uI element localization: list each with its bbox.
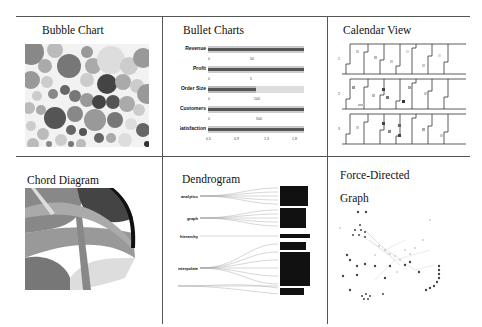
svg-text:0: 0 xyxy=(208,97,210,101)
svg-text:50: 50 xyxy=(250,57,254,61)
svg-text:interpolate: interpolate xyxy=(178,266,199,271)
table-top-border xyxy=(16,16,470,17)
svg-text:Satisfaction: Satisfaction xyxy=(180,125,206,131)
svg-text:Customers: Customers xyxy=(180,105,206,111)
cell-title: Dendrogram xyxy=(182,173,240,185)
svg-text:graph: graph xyxy=(187,216,199,221)
cell-title: Calendar View xyxy=(343,24,411,36)
table-col-divider-1 xyxy=(162,16,163,324)
svg-text:0: 0 xyxy=(208,117,210,121)
svg-text:100: 100 xyxy=(254,97,260,101)
svg-text:1.8: 1.8 xyxy=(292,137,297,141)
table-row-divider xyxy=(16,156,470,157)
svg-text:0.9: 0.9 xyxy=(234,137,239,141)
calendar-view-image: 1 2 3 xyxy=(338,42,466,148)
svg-text:1.3: 1.3 xyxy=(264,137,269,141)
svg-text:0: 0 xyxy=(208,57,210,61)
force-directed-graph-image xyxy=(335,210,470,305)
svg-text:analytics: analytics xyxy=(181,194,199,199)
svg-text:500: 500 xyxy=(256,117,262,121)
cell-title-line-2: Graph xyxy=(340,192,369,204)
chord-diagram-image xyxy=(25,188,143,290)
cell-title: Force-Directed xyxy=(340,169,410,181)
table-col-divider-2 xyxy=(327,16,328,324)
svg-text:2: 2 xyxy=(338,92,340,96)
bullet-label-revenue: Revenue xyxy=(185,45,206,51)
cell-title: Bullet Charts xyxy=(183,24,244,36)
cell-title: Bubble Chart xyxy=(42,24,104,36)
svg-text:3: 3 xyxy=(338,127,340,131)
bullet-charts-image: Revenue 050 Profit 05 Order Size 0100 Cu… xyxy=(180,44,312,144)
svg-text:Profit: Profit xyxy=(193,65,206,71)
dendrogram-image: analytics graph hierarchy interpolate xyxy=(178,186,312,296)
svg-text:0.5: 0.5 xyxy=(206,137,211,141)
svg-text:5: 5 xyxy=(250,77,252,81)
svg-text:1: 1 xyxy=(338,57,340,61)
svg-text:0: 0 xyxy=(208,77,210,81)
svg-text:hierarchy: hierarchy xyxy=(180,234,199,239)
cell-title: Chord Diagram xyxy=(27,174,99,186)
svg-text:Order Size: Order Size xyxy=(181,85,206,91)
bubble-chart-image xyxy=(25,44,149,147)
